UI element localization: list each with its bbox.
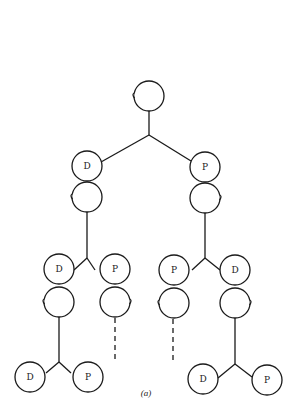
svg-text:D: D xyxy=(26,372,33,382)
branch-l1-left-a xyxy=(74,258,87,270)
cell-p-level3-b: P xyxy=(73,362,103,392)
svg-text:P: P xyxy=(85,372,91,382)
cell-p-level3-d: P xyxy=(252,365,282,395)
cell-d-level3-c: D xyxy=(188,364,218,394)
cell-level1-left-lower xyxy=(71,182,102,212)
branch-l1-right-a xyxy=(192,258,205,270)
cell-p-level1: P xyxy=(190,152,220,182)
branch-l2-d-left xyxy=(218,364,235,378)
cell-p-level2-b: P xyxy=(100,254,130,284)
branch-l1-left-b xyxy=(87,258,95,270)
cell-level2-a-lower xyxy=(43,287,74,317)
figure-caption: (a) xyxy=(141,388,152,398)
diagram-canvas: D P D P P xyxy=(0,0,293,419)
svg-text:D: D xyxy=(199,374,206,384)
cell-d-level1: D xyxy=(72,151,102,181)
branch-l1-right-b xyxy=(205,258,220,270)
svg-text:D: D xyxy=(231,265,238,275)
cell-d-level2-a: D xyxy=(44,254,74,284)
svg-text:D: D xyxy=(55,264,62,274)
branch-right xyxy=(149,135,191,161)
branch-l2-d-right xyxy=(235,364,252,377)
svg-text:D: D xyxy=(83,161,90,171)
cell-level2-c-lower xyxy=(158,288,189,318)
cell-d-level3-a: D xyxy=(15,362,45,392)
cell-level2-b-lower xyxy=(100,287,131,317)
svg-text:P: P xyxy=(171,265,177,275)
cell-level1-right-lower xyxy=(190,183,221,213)
branch-left xyxy=(101,135,149,162)
branch-l2-a-left xyxy=(46,362,59,373)
cell-level2-d-lower xyxy=(220,288,251,318)
svg-text:P: P xyxy=(202,162,208,172)
branch-l2-a-right xyxy=(59,362,71,373)
cell-d-level2-d: D xyxy=(220,255,250,285)
root-cell xyxy=(133,81,164,111)
cell-lineage-diagram: D P D P P xyxy=(0,0,293,419)
cell-p-level2-c: P xyxy=(159,255,189,285)
svg-text:P: P xyxy=(264,375,270,385)
svg-text:P: P xyxy=(112,264,118,274)
